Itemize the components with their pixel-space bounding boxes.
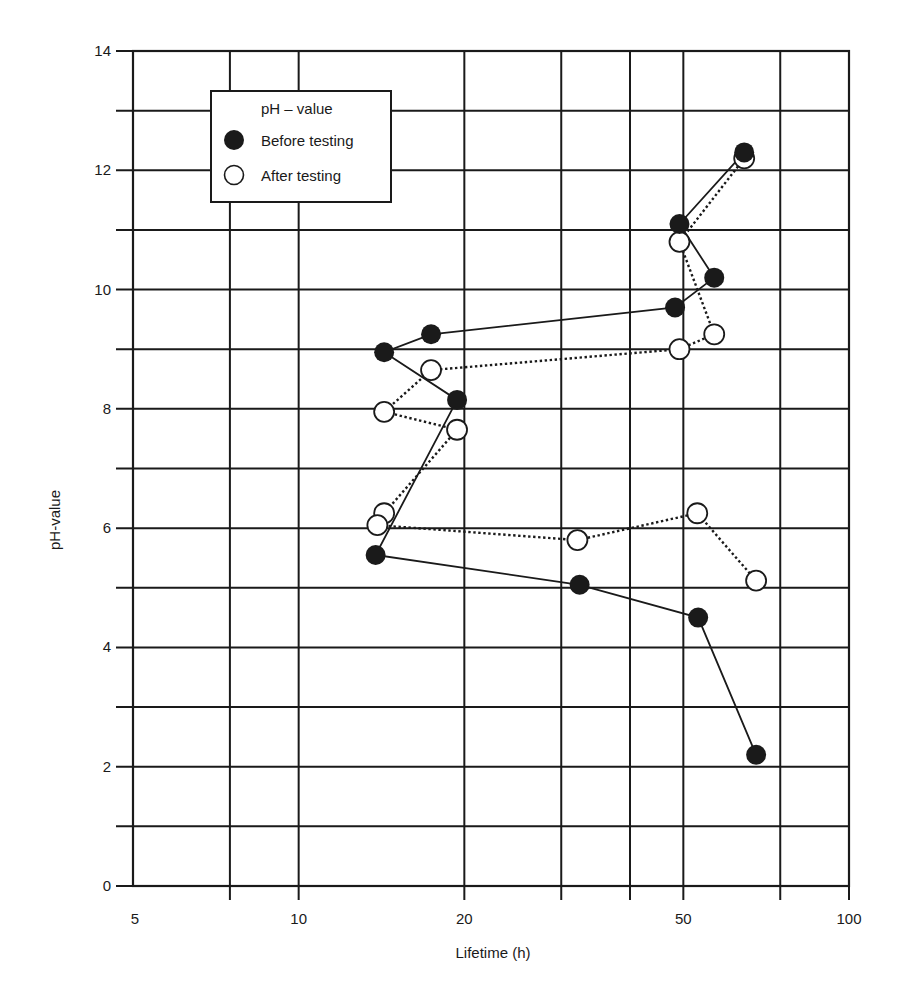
y-tick-label: 6 [103, 519, 111, 536]
before-testing-point [447, 390, 467, 410]
x-tick-label: 10 [290, 910, 307, 927]
before-testing-line [376, 152, 756, 754]
filled-circle-icon [224, 130, 244, 150]
x-tick-label: 20 [456, 910, 473, 927]
y-axis-tick-labels: 02468101214 [94, 42, 111, 894]
before-testing-point [734, 142, 754, 162]
before-testing-point [704, 268, 724, 288]
open-circle-icon [225, 166, 244, 185]
x-axis-label: Lifetime (h) [455, 944, 530, 961]
legend-title: pH – value [261, 100, 333, 117]
x-tick-label: 50 [675, 910, 692, 927]
after-testing-point [669, 232, 689, 252]
after-testing-point [669, 339, 689, 359]
before-testing-point [669, 214, 689, 234]
after-testing-point [421, 360, 441, 380]
y-tick-label: 10 [94, 281, 111, 298]
legend-entry-after: After testing [261, 167, 341, 184]
chart: 02468101214 5102050100 Lifetime (h) pH-v… [0, 0, 902, 1004]
before-testing-point [570, 575, 590, 595]
before-testing-point [421, 324, 441, 344]
before-testing-point [366, 545, 386, 565]
legend-entry-before: Before testing [261, 132, 354, 149]
x-axis-tick-labels: 5102050100 [131, 910, 862, 927]
before-testing-point [374, 342, 394, 362]
before-testing-point [746, 745, 766, 765]
y-tick-label: 0 [103, 877, 111, 894]
y-tick-label: 12 [94, 161, 111, 178]
y-tick-label: 8 [103, 400, 111, 417]
after-testing-point [687, 503, 707, 523]
x-tick-label: 5 [131, 910, 139, 927]
x-tick-label: 100 [836, 910, 861, 927]
after-testing-point [567, 530, 587, 550]
series-markers [366, 142, 766, 764]
y-tick-label: 14 [94, 42, 111, 59]
after-testing-point [704, 324, 724, 344]
y-axis-label: pH-value [46, 490, 63, 550]
legend: pH – value Before testing After testing [211, 91, 391, 202]
after-testing-point [367, 515, 387, 535]
after-testing-point [447, 420, 467, 440]
series-lines [376, 152, 756, 754]
after-testing-point [374, 402, 394, 422]
after-testing-point [746, 571, 766, 591]
before-testing-point [688, 608, 708, 628]
y-tick-label: 4 [103, 638, 111, 655]
y-tick-label: 2 [103, 758, 111, 775]
before-testing-point [665, 297, 685, 317]
